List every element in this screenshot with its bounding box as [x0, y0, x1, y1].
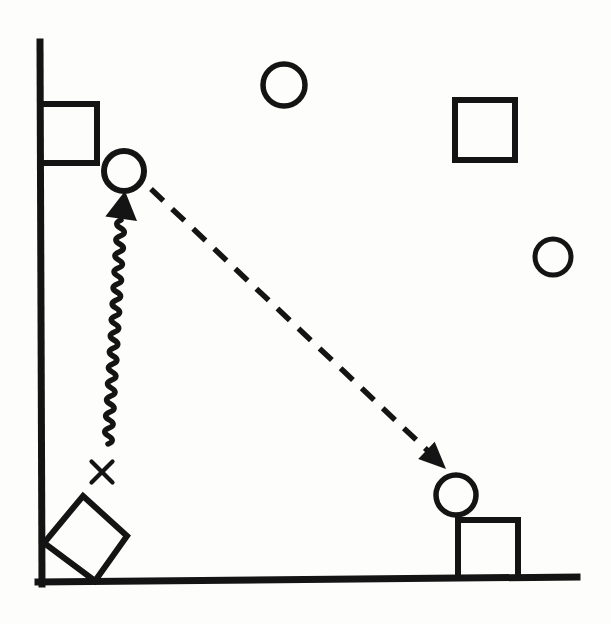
- figure-canvas: [0, 0, 611, 624]
- wavy-arrow: [105, 191, 137, 444]
- diagram-svg: [0, 0, 611, 624]
- circle-upper-left: [104, 151, 144, 191]
- rotated-square: [44, 496, 127, 581]
- square-upper-left: [40, 104, 97, 163]
- square-upper-right: [455, 100, 515, 160]
- square-lower-right: [458, 520, 518, 578]
- circle-right: [535, 239, 571, 275]
- dashed-arrow: [151, 189, 446, 469]
- circle-lower-right: [436, 475, 476, 515]
- x-mark: [92, 462, 113, 483]
- circle-top-middle: [263, 64, 305, 106]
